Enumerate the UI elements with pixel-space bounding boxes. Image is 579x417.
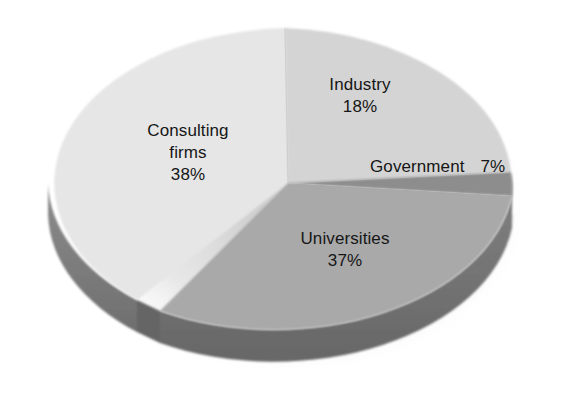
pie-chart-graphic bbox=[0, 0, 579, 417]
pie-top-face bbox=[54, 28, 512, 330]
pie-slice-industry bbox=[285, 28, 511, 183]
pie-chart: Industry 18% Government 7% Universities … bbox=[0, 0, 579, 417]
